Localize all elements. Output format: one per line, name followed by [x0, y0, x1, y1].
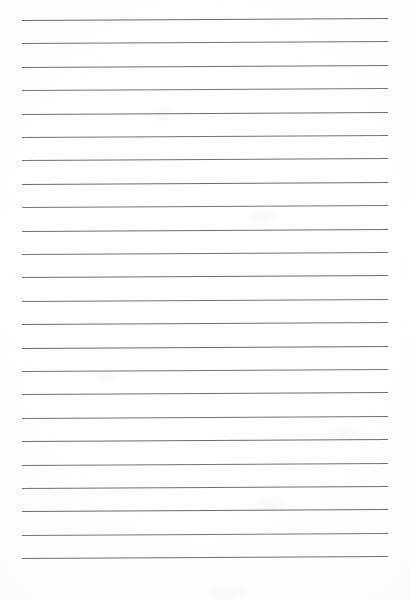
ruled-line [22, 345, 388, 348]
ruled-line [22, 299, 388, 302]
ruled-line [22, 88, 388, 91]
ruled-line [22, 275, 388, 278]
ruled-line [22, 252, 388, 255]
ruled-line [22, 509, 388, 512]
ruled-line [22, 111, 388, 114]
ruled-line [22, 18, 388, 21]
ruled-line [22, 439, 388, 442]
ruled-line [22, 533, 388, 536]
ruled-line [22, 228, 388, 231]
ruled-line [22, 205, 388, 208]
ruled-line [22, 322, 388, 325]
ruled-line [22, 416, 388, 419]
ruled-line [22, 486, 388, 489]
ruled-line [22, 182, 388, 185]
ruled-line [22, 369, 388, 372]
ruled-line [22, 135, 388, 138]
document-page [0, 0, 410, 600]
ruled-line [22, 41, 388, 44]
ruled-line [22, 158, 388, 161]
ruled-line [22, 462, 388, 465]
ruled-line [22, 392, 388, 395]
ruled-line [22, 65, 388, 68]
ruled-line [22, 556, 388, 559]
ruled-lines-layer [0, 0, 410, 600]
